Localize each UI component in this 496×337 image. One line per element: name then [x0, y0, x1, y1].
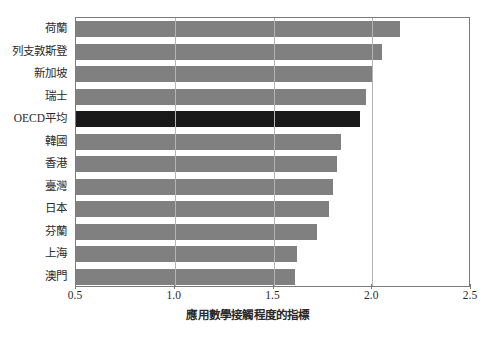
x-axis-tick-label: 1.0	[167, 289, 181, 301]
bar-row	[76, 63, 469, 86]
y-axis-label: 瑞士	[45, 85, 67, 108]
bars-layer	[76, 18, 469, 286]
x-axis-tick-label: 2.0	[364, 289, 378, 301]
y-axis-category-labels: 荷蘭列支敦斯登新加坡瑞士OECD平均韓國香港臺灣日本芬蘭上海澳門	[0, 17, 71, 287]
bar-chart: 荷蘭列支敦斯登新加坡瑞士OECD平均韓國香港臺灣日本芬蘭上海澳門 0.51.01…	[0, 0, 496, 337]
plot-area	[75, 17, 470, 287]
bar	[76, 44, 382, 60]
bar	[76, 269, 295, 285]
x-axis-tick-label: 0.5	[68, 289, 82, 301]
y-axis-label: OECD平均	[14, 107, 67, 130]
x-axis-tick-label: 1.5	[265, 289, 279, 301]
bar	[76, 111, 360, 127]
bar	[76, 156, 337, 172]
bar	[76, 21, 400, 37]
bar	[76, 201, 329, 217]
bar-row	[76, 153, 469, 176]
bar-row	[76, 221, 469, 244]
bar-row	[76, 86, 469, 109]
y-axis-label: 香港	[45, 152, 67, 175]
bar-row	[76, 108, 469, 131]
y-axis-label: 日本	[45, 197, 67, 220]
x-axis-title: 應用數學接觸程度的指標	[0, 306, 496, 322]
bar-row	[76, 198, 469, 221]
bar	[76, 89, 366, 105]
y-axis-label: 芬蘭	[45, 220, 67, 243]
bar-row	[76, 176, 469, 199]
y-axis-label: 荷蘭	[45, 17, 67, 40]
bar-row	[76, 18, 469, 41]
bar-row	[76, 243, 469, 266]
bar	[76, 179, 333, 195]
bar	[76, 246, 297, 262]
bar	[76, 66, 372, 82]
y-axis-label: 韓國	[45, 130, 67, 153]
bar-row	[76, 41, 469, 64]
y-axis-label: 列支敦斯登	[12, 40, 67, 63]
bar-row	[76, 131, 469, 154]
y-axis-label: 臺灣	[45, 175, 67, 198]
x-axis-tick-label: 2.5	[463, 289, 477, 301]
y-axis-label: 上海	[45, 242, 67, 265]
bar	[76, 224, 317, 240]
x-axis-tick-labels: 0.51.01.52.02.5	[0, 289, 496, 307]
bar-row	[76, 266, 469, 289]
y-axis-label: 新加坡	[34, 62, 67, 85]
bar	[76, 134, 341, 150]
y-axis-label: 澳門	[45, 265, 67, 288]
